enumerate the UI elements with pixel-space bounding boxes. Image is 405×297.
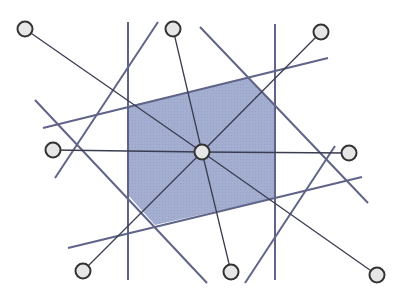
node-left [46,143,61,158]
spoke-line [202,152,377,275]
node-bottom [224,265,239,280]
node-top-left [18,22,33,37]
node-bottom-right [370,268,385,283]
node-top-right [314,25,329,40]
node-center [195,145,210,160]
node-top [166,22,181,37]
node-right [342,146,357,161]
spoke-line [25,29,202,152]
node-bottom-left [76,264,91,279]
half-plane-diagram [0,0,405,297]
diagram-canvas [0,0,405,297]
